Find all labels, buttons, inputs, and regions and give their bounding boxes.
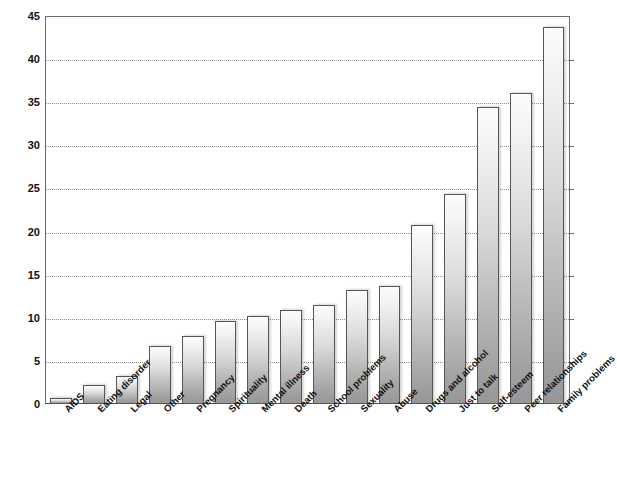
- y-tick-label: 40: [0, 53, 40, 65]
- y-tick-label: 5: [0, 355, 40, 367]
- bar: [313, 305, 335, 404]
- y-tick-label: 0: [0, 398, 40, 410]
- y-tick-label: 10: [0, 312, 40, 324]
- bar: [543, 27, 565, 404]
- y-tick-label: 35: [0, 96, 40, 108]
- y-tick-label: 20: [0, 226, 40, 238]
- x-axis-labels: AIDSEating disorderLegalOtherPregnancySp…: [45, 404, 570, 481]
- y-tick-label: 25: [0, 182, 40, 194]
- bar: [510, 93, 532, 404]
- y-tick-label: 30: [0, 139, 40, 151]
- y-axis-tick-labels: 051015202530354045: [0, 16, 40, 404]
- y-tick-label: 45: [0, 10, 40, 22]
- bar: [411, 225, 433, 404]
- y-tick-label: 15: [0, 269, 40, 281]
- bars-container: [45, 16, 570, 404]
